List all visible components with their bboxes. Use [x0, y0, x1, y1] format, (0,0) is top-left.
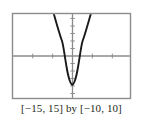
viewing-window-caption: [−15, 15] by [−10, 10]	[0, 101, 143, 115]
plot-area	[11, 12, 132, 100]
graph-svg	[11, 12, 132, 100]
graph-figure: [−15, 15] by [−10, 10]	[0, 0, 143, 122]
